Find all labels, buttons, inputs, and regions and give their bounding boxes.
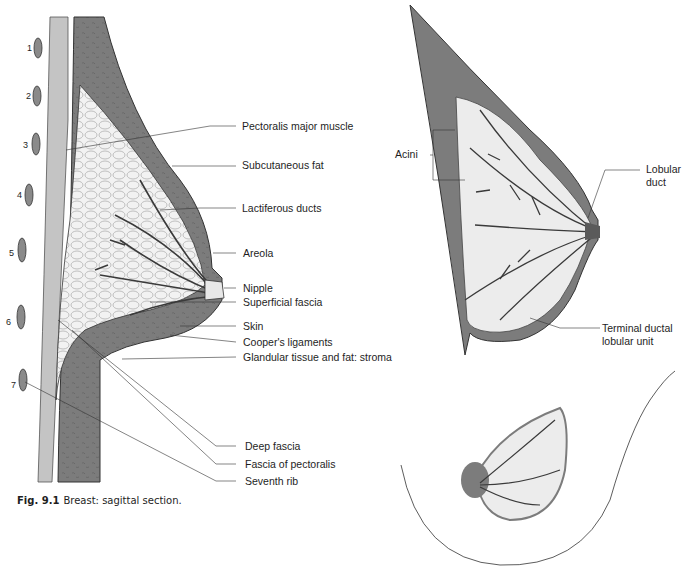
rib-number-3: 3 [23, 140, 28, 150]
label-coopers-ligaments: Cooper's ligaments [243, 336, 333, 348]
figure-caption: Fig. 9.1Breast: sagittal section. [17, 495, 182, 506]
label-nipple: Nipple [243, 282, 273, 294]
label-acini: Acini [395, 148, 418, 160]
areola [461, 462, 489, 498]
figure-number: Fig. 9.1 [17, 495, 59, 506]
label-skin: Skin [243, 320, 263, 332]
label-deep-fascia: Deep fascia [245, 440, 300, 452]
label-lobular-duct-2: duct [646, 176, 666, 188]
label-tdlu-1: Terminal ductal [602, 322, 673, 334]
ductal-view [410, 5, 640, 355]
rib-number-7: 7 [11, 380, 16, 390]
label-seventh-rib: Seventh rib [245, 475, 298, 487]
label-pectoralis-major: Pectoralis major muscle [242, 120, 353, 132]
sagittal-section [17, 17, 236, 482]
label-lactiferous-ducts: Lactiferous ducts [242, 202, 321, 214]
label-subcutaneous-fat: Subcutaneous fat [242, 159, 324, 171]
rib-number-6: 6 [6, 317, 11, 327]
label-lobular-duct-1: Lobular [646, 163, 681, 175]
rib-number-5: 5 [9, 248, 14, 258]
rib-number-2: 2 [26, 91, 31, 101]
rib-number-1: 1 [27, 43, 32, 53]
label-fascia-of-pectoralis: Fascia of pectoralis [245, 458, 335, 470]
label-glandular-tissue: Glandular tissue and fat: stroma [243, 351, 392, 363]
nipple [205, 280, 224, 300]
breast-anatomy-diagram [0, 0, 682, 574]
label-areola: Areola [243, 247, 273, 259]
figure-caption-text: Breast: sagittal section. [63, 495, 181, 506]
rib-number-4: 4 [17, 190, 22, 200]
frontal-view [401, 371, 675, 565]
label-tdlu-2: lobular unit [602, 335, 653, 347]
label-superficial-fascia: Superficial fascia [243, 296, 322, 308]
